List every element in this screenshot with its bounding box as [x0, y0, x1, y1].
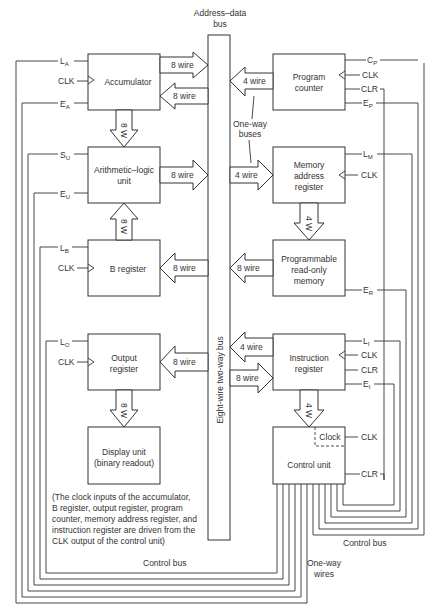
bus-width-label: 8 wire	[173, 263, 196, 273]
bus-width-label: 8 wire	[171, 170, 194, 180]
signal-su: SU	[60, 150, 70, 161]
note-line: CLK output of the control unit)	[52, 536, 165, 546]
bus-width-label: 8 wire	[171, 60, 194, 70]
signal-ei: EI	[363, 379, 371, 390]
note-line: instruction register are driven from the	[52, 525, 195, 535]
b-register-block: B register	[88, 240, 160, 296]
display-unit-label-line2: (binary readout)	[94, 458, 154, 468]
bus-arrow-bus-to-b: 8 wire	[160, 253, 208, 283]
signal-li: LI	[363, 336, 370, 347]
bus-width-label: 8 W	[119, 403, 129, 418]
one-way-buses-label-line1: One-way	[233, 119, 268, 129]
bus-vertical-label: Eight-wire two-way bus	[215, 336, 225, 423]
display-unit-block: Display unit (binary readout)	[88, 427, 160, 484]
alu-box	[88, 147, 160, 203]
bus-width-label: 4 wire	[235, 170, 258, 180]
signal-clk-mar: CLK	[361, 170, 378, 180]
bus-body	[208, 35, 230, 540]
signal-lb: LB	[60, 243, 69, 254]
program-counter-label-line1: Program	[293, 72, 326, 82]
signal-cp: CP	[367, 55, 377, 66]
signal-clr-pc: CLR	[361, 84, 378, 94]
bus-width-label: 8 W	[119, 123, 129, 138]
accumulator-block: Accumulator	[88, 54, 160, 110]
signal-clk-acc: CLK	[58, 76, 75, 86]
bus-arrow-pc-to-bus: 4 wire	[230, 67, 273, 96]
prom-label-line3: memory	[294, 276, 325, 286]
signal-clk-b: CLK	[58, 263, 75, 273]
bus-arrow-alu-to-bus: 8 wire	[160, 160, 208, 190]
wire-ei	[343, 384, 394, 505]
bus-arrow-ir-to-control: 4 W	[294, 390, 324, 427]
signal-eu: EU	[60, 189, 70, 200]
prom-block: Programmable read-only memory	[273, 240, 345, 296]
sap1-architecture-diagram: Address–data bus Eight-wire two-way bus …	[0, 0, 440, 616]
note-line: counter, memory address register, and	[52, 514, 197, 524]
bus-arrow-acc-to-bus: 8 wire	[160, 52, 208, 78]
signal-lo: LO	[60, 337, 70, 348]
mar-label-line2: address	[294, 171, 324, 181]
signal-clk-control: CLK	[361, 432, 378, 442]
signal-lm: LM	[363, 149, 373, 160]
program-counter-label-line2: counter	[295, 83, 324, 93]
control-unit-block: Control unit Clock	[273, 427, 345, 484]
program-counter-box	[273, 54, 345, 110]
ir-label-line2: register	[295, 364, 324, 374]
signal-la: LA	[60, 56, 69, 67]
bus-width-label: 8 wire	[173, 91, 196, 101]
alu-label-line2: unit	[117, 176, 131, 186]
bus-title-line1: Address–data	[194, 8, 247, 18]
output-register-label-line1: Output	[111, 353, 137, 363]
bus-arrow-bus-to-output: 8 wire	[160, 346, 208, 378]
wire-clr-pc	[380, 89, 384, 480]
memory-address-register-block: Memory address register	[273, 147, 345, 203]
signal-ea: EA	[60, 99, 70, 110]
b-register-label: B register	[110, 264, 147, 274]
bus-title-line2: bus	[213, 19, 227, 29]
display-unit-label-line1: Display unit	[102, 447, 147, 457]
prom-label-line1: Programmable	[281, 254, 337, 264]
mar-label-line3: register	[295, 182, 324, 192]
note-line: B register, output register, program	[52, 503, 183, 513]
bus-arrow-output-to-display: 8 W	[110, 390, 138, 427]
signal-clk-pc: CLK	[362, 70, 379, 80]
bus-arrow-mar-to-prom: 4 W	[294, 203, 324, 240]
one-way-buses-label-line2: buses	[239, 129, 262, 139]
bus-arrow-bus-to-mar: 4 wire	[230, 160, 273, 190]
one-way-wires-label-line2: wires	[313, 569, 334, 579]
bus-width-label: 8 wire	[173, 357, 196, 367]
bus-arrow-bus-to-ir: 8 wire	[230, 363, 273, 393]
bus-width-label: 8 wire	[237, 263, 260, 273]
accumulator-label: Accumulator	[104, 77, 151, 87]
control-bus-label-right: Control bus	[343, 538, 386, 548]
alu-block: Arithmetic–logic unit	[88, 147, 160, 203]
note-line: (The clock inputs of the accumulator,	[52, 492, 190, 502]
mar-label-line1: Memory	[294, 160, 325, 170]
signal-clr-ir: CLR	[361, 365, 378, 375]
bus-width-label: 8 wire	[236, 373, 259, 383]
bus-width-label: 4 W	[304, 216, 314, 231]
control-unit-label: Control unit	[287, 460, 331, 470]
ir-label-line1: Instruction	[289, 353, 328, 363]
signal-er: ER	[363, 285, 374, 296]
signal-clk-ir: CLK	[361, 350, 378, 360]
bus-width-label: 4 wire	[240, 342, 263, 352]
bus-arrow-bus-to-acc: 8 wire	[160, 83, 208, 109]
bus-width-label: 8 W	[119, 219, 129, 234]
pointer-line	[252, 96, 254, 119]
signal-clk-output: CLK	[58, 357, 75, 367]
bus-arrow-b-to-alu: 8 W	[110, 203, 138, 240]
clock-label: Clock	[319, 432, 341, 442]
bus-arrow-prom-to-bus: 8 wire	[230, 253, 273, 283]
bus-width-label: 4 W	[304, 403, 314, 418]
one-way-buses-annotation: One-way buses	[233, 96, 268, 163]
bus-arrow-ir-to-bus: 4 wire	[230, 332, 273, 362]
wire-clr-control	[380, 474, 384, 480]
bus-width-label: 4 wire	[243, 76, 266, 86]
signal-ep: EP	[363, 98, 373, 109]
output-register-label-line2: register	[110, 364, 139, 374]
control-bus-label-left: Control bus	[143, 558, 186, 568]
instruction-register-block: Instruction register	[273, 334, 345, 390]
pointer-line	[249, 140, 251, 163]
clock-note: (The clock inputs of the accumulator, B …	[52, 492, 197, 546]
